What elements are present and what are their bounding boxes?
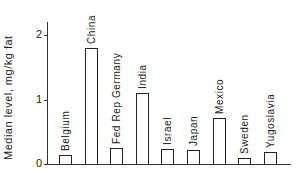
- bar-label: India: [137, 64, 148, 89]
- y-tick-label: 0: [30, 157, 42, 169]
- bar-label: Japan: [188, 116, 199, 146]
- bar-label: Israel: [162, 117, 173, 145]
- bar-chart: Median level, mg/kg fat 012 BelgiumChina…: [0, 0, 305, 178]
- y-tick-label: 1: [30, 93, 42, 105]
- bar-label: China: [86, 15, 97, 44]
- bar-israel: [161, 149, 174, 164]
- bar-label: Belgium: [60, 111, 71, 151]
- bar-label: Mexico: [214, 79, 225, 114]
- bar-japan: [187, 150, 200, 164]
- bar-sweden: [238, 158, 251, 164]
- bar-label: Sweden: [239, 114, 250, 154]
- bar-fed-rep-germany: [110, 148, 123, 164]
- bar-india: [136, 93, 149, 164]
- bar-label: Fed Rep Germany: [111, 53, 122, 144]
- y-axis-line: [47, 22, 48, 165]
- bar-label: Yugoslavia: [265, 94, 276, 148]
- y-tick: [44, 35, 48, 36]
- bar-china: [85, 48, 98, 164]
- y-tick: [44, 164, 48, 165]
- y-tick: [44, 100, 48, 101]
- y-axis-label: Median level, mg/kg fat: [2, 0, 16, 160]
- bar-yugoslavia: [264, 152, 277, 164]
- bar-belgium: [59, 155, 72, 164]
- y-tick-label: 2: [30, 28, 42, 40]
- bar-mexico: [213, 118, 226, 164]
- x-axis-line: [47, 164, 291, 165]
